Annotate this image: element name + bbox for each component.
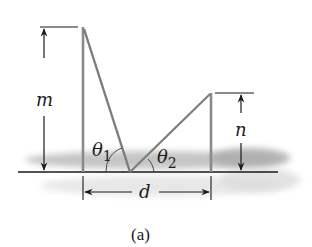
reflection-diagram: m n d θ1 θ2 (a) [0,0,312,247]
figure-caption: (a) [131,225,150,244]
m-dimension: m [36,27,78,170]
d-label: d [139,181,151,202]
m-label: m [36,89,53,110]
n-label: n [235,119,247,140]
diagram-canvas: m n d θ1 θ2 (a) [0,0,312,247]
